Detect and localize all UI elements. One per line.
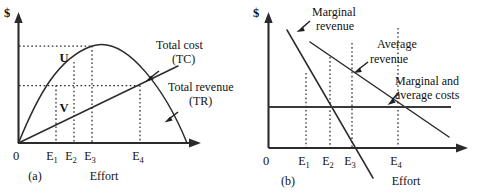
- panel-a-total-cost-curve: [19, 44, 188, 143]
- panel-b-annotation-average-revenue: Average revenue: [354, 37, 417, 73]
- panel-a-y-axis-label: $: [4, 6, 10, 20]
- panel-a-series: [19, 44, 188, 143]
- panel-b-caption: (b): [281, 174, 295, 188]
- panel-a-point-label-u: U: [59, 51, 68, 65]
- panel-a-annotation-total-cost-line1: Total cost: [156, 38, 203, 52]
- panel-b-tick-labels: E1 E2 E3 E4: [298, 154, 402, 170]
- panel-b-annotation-costs-line1: Marginal and: [395, 74, 459, 88]
- panel-b-tick-e1: E1: [298, 154, 310, 170]
- panel-a-origin-label: 0: [13, 149, 19, 163]
- panel-b-tick-e3: E3: [344, 154, 356, 170]
- panel-b-x-axis-title: Effort: [392, 174, 421, 188]
- panel-a-dashed-guides: [19, 46, 140, 143]
- panel-a-y-axis-arrow-icon: [14, 12, 22, 23]
- panel-a-x-axis-arrow-icon: [189, 139, 201, 148]
- panel-b-annotation-costs: Marginal and average costs: [388, 74, 460, 105]
- panel-a-total-cost-revenue: U V Total cost (TC) Total revenue (TR) $…: [0, 0, 246, 195]
- panel-a-annotation-total-cost: Total cost (TC): [146, 38, 204, 82]
- panel-a-point-label-v: V: [59, 101, 68, 115]
- panel-b-annotation-average-revenue-pointer: [359, 62, 368, 69]
- panel-a-annotation-total-revenue-line1: Total revenue: [168, 80, 233, 94]
- panel-a-annotation-total-revenue-line2: (TR): [189, 94, 212, 108]
- panel-b-annotation-average-revenue-line1: Average: [377, 37, 417, 51]
- panel-b-series: [269, 30, 452, 178]
- panel-b-annotation-marginal-revenue-line2: revenue: [316, 19, 354, 33]
- panel-a-tick-labels: E1 E2 E3 E4: [46, 149, 144, 165]
- panel-a-tick-e2: E2: [65, 149, 77, 165]
- panel-b-annotation-marginal-revenue-pointer: [302, 21, 310, 28]
- panel-a-annotation-total-cost-line2: (TC): [172, 52, 195, 66]
- panel-b-annotation-costs-line2: average costs: [395, 88, 460, 102]
- panel-a-tick-e3: E3: [84, 149, 96, 165]
- panel-b-tick-e2: E2: [322, 154, 334, 170]
- panel-a-caption: (a): [28, 169, 41, 183]
- panel-b-annotation-average-revenue-line2: revenue: [370, 52, 408, 66]
- panel-b-y-axis-label: $: [253, 6, 259, 20]
- economics-figure: U V Total cost (TC) Total revenue (TR) $…: [0, 0, 493, 195]
- panel-a-x-axis-title: Effort: [90, 169, 119, 183]
- panel-b-annotation-marginal-revenue: Marginal revenue: [297, 5, 357, 33]
- panel-b-annotation-marginal-revenue-line1: Marginal: [312, 5, 356, 19]
- panel-a-total-revenue-line: [19, 66, 179, 143]
- panel-b-tick-e4: E4: [390, 154, 402, 170]
- panel-b-x-axis-arrow-icon: [456, 144, 468, 153]
- panel-a-tick-e4: E4: [132, 149, 144, 165]
- panel-a-tick-e1: E1: [46, 149, 58, 165]
- panel-b-marginal-average: Marginal revenue Average revenue Margina…: [246, 0, 493, 195]
- panel-b-y-axis-arrow-icon: [264, 12, 272, 23]
- panel-b-origin-label: 0: [263, 154, 269, 168]
